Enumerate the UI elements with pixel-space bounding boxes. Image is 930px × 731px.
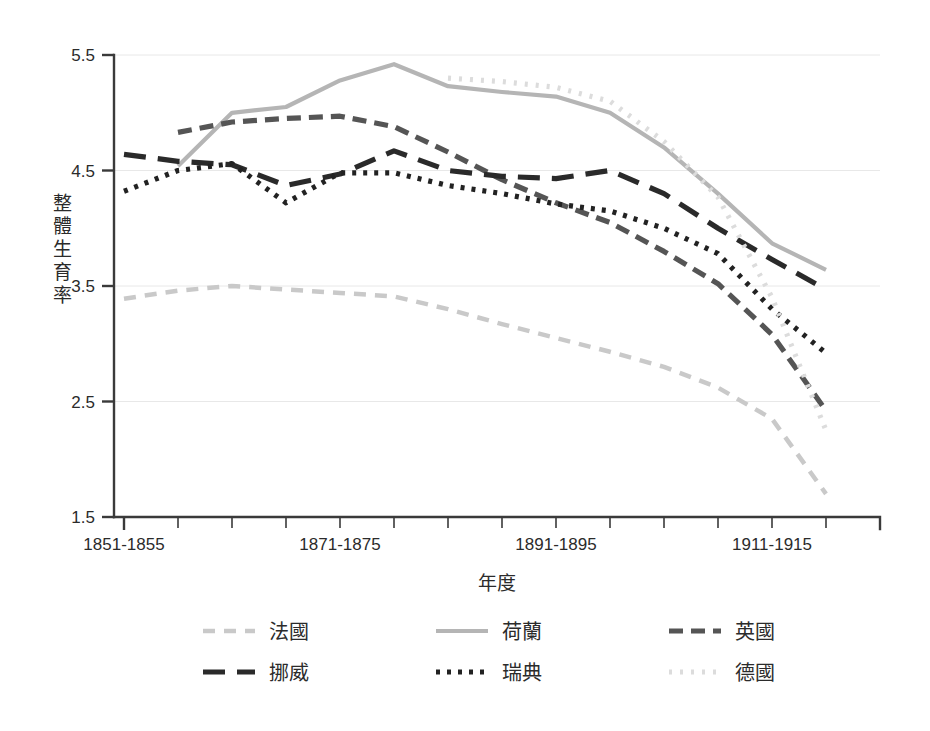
y-axis-tick-labels: 1.52.53.54.55.5 <box>71 46 95 527</box>
legend-item-norway[interactable]: 挪威 <box>203 662 309 684</box>
legend-label-sweden: 瑞典 <box>502 662 542 684</box>
y-tick-label: 3.5 <box>71 277 95 296</box>
y-tick-label: 5.5 <box>71 46 95 65</box>
series-line-netherlands <box>178 64 826 270</box>
legend-label-netherlands: 荷蘭 <box>502 621 542 643</box>
legend-label-germany: 德國 <box>735 662 775 684</box>
gridlines-group <box>114 55 880 402</box>
legend-item-france[interactable]: 法國 <box>203 621 309 643</box>
series-line-norway <box>124 151 826 290</box>
series-group <box>124 64 826 494</box>
y-tick-label: 4.5 <box>71 162 95 181</box>
x-tick-label: 1891-1895 <box>515 535 596 554</box>
x-axis-ticks <box>124 517 826 530</box>
series-line-sweden <box>124 164 826 353</box>
legend-label-norway: 挪威 <box>269 662 309 684</box>
axes-group <box>114 55 880 529</box>
legend-item-netherlands[interactable]: 荷蘭 <box>436 621 542 643</box>
legend-label-england: 英國 <box>735 621 775 643</box>
x-tick-label: 1911-1915 <box>732 535 812 554</box>
y-tick-label: 1.5 <box>71 508 95 527</box>
y-axis-ticks <box>102 55 114 517</box>
y-tick-label: 2.5 <box>71 393 95 412</box>
legend-label-france: 法國 <box>269 621 309 643</box>
chart-legend: 法國荷蘭英國挪威瑞典德國 <box>203 621 775 684</box>
x-axis-line <box>114 517 880 529</box>
legend-item-germany[interactable]: 德國 <box>669 662 775 684</box>
x-tick-label: 1871-1875 <box>299 535 380 554</box>
fertility-rate-line-chart: 1.52.53.54.55.5 1851-18551871-18751891-1… <box>0 0 930 731</box>
y-axis-title: 整體生育率 <box>53 193 72 306</box>
chart-canvas: 1.52.53.54.55.5 1851-18551871-18751891-1… <box>0 0 930 731</box>
series-line-england <box>178 116 826 411</box>
series-line-france <box>124 286 826 494</box>
x-axis-title: 年度 <box>478 573 516 594</box>
legend-item-england[interactable]: 英國 <box>669 621 775 643</box>
x-axis-tick-labels: 1851-18551871-18751891-18951911-1915 <box>83 535 812 554</box>
legend-item-sweden[interactable]: 瑞典 <box>436 662 542 684</box>
x-tick-label: 1851-1855 <box>83 535 164 554</box>
